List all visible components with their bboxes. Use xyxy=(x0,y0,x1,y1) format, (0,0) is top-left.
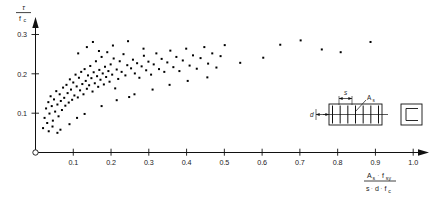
data-point xyxy=(143,55,145,57)
data-point xyxy=(134,72,136,74)
data-point xyxy=(98,69,100,71)
data-point xyxy=(101,105,103,107)
spacing-arrow-right xyxy=(348,97,352,100)
data-point xyxy=(90,77,92,79)
data-point xyxy=(79,89,81,91)
data-point xyxy=(76,117,78,119)
data-point xyxy=(93,71,95,73)
data-point xyxy=(145,69,147,71)
data-point xyxy=(53,98,55,100)
data-point xyxy=(116,69,118,71)
data-point xyxy=(44,117,46,119)
data-point xyxy=(189,65,191,67)
data-point xyxy=(340,51,342,53)
data-point xyxy=(169,84,171,86)
data-point xyxy=(86,88,88,90)
data-point xyxy=(143,48,145,50)
data-point xyxy=(84,68,86,70)
y-axis-label: τ f c xyxy=(16,4,31,23)
data-point xyxy=(220,55,222,57)
data-point xyxy=(102,72,104,74)
x-tick-label-4: 0.5 xyxy=(219,158,229,167)
data-point xyxy=(88,84,90,86)
data-point xyxy=(80,71,82,73)
data-point xyxy=(47,101,49,103)
x-axis-label-s: s xyxy=(366,185,370,192)
cross-section-stirrup xyxy=(406,109,418,121)
x-axis-label-dot-2: · xyxy=(381,185,383,191)
data-point xyxy=(133,93,135,95)
data-point xyxy=(182,59,184,61)
x-tick-label-9: 1.0 xyxy=(408,158,418,167)
x-axis-label-fsy-main: f xyxy=(382,172,384,179)
data-point xyxy=(54,111,56,113)
data-point xyxy=(42,127,44,129)
data-point xyxy=(128,96,130,98)
data-point xyxy=(104,66,106,68)
data-point xyxy=(106,51,108,53)
inset-beam-diagram: s A s d xyxy=(310,89,422,125)
data-point xyxy=(85,80,87,82)
x-axis-label-fsy-sub: sy xyxy=(386,175,392,181)
data-point xyxy=(150,74,152,76)
data-point xyxy=(87,74,89,76)
data-point xyxy=(69,78,71,80)
data-point xyxy=(121,71,123,73)
data-point xyxy=(110,63,112,65)
scatter-plot: 0.1 0.2 0.3 τ f c 0.10.20.30.40.50.60.70… xyxy=(0,0,443,200)
area-leader-line xyxy=(355,100,366,112)
data-point xyxy=(262,57,264,59)
data-point xyxy=(113,57,115,59)
data-point xyxy=(109,81,111,83)
data-point xyxy=(239,62,241,64)
depth-arrow-left xyxy=(316,113,320,116)
data-point xyxy=(105,76,107,78)
data-point xyxy=(81,83,83,85)
data-point xyxy=(127,40,129,42)
data-point xyxy=(178,70,180,72)
data-point xyxy=(96,75,98,77)
figure-root: 0.1 0.2 0.3 τ f c 0.10.20.30.40.50.60.70… xyxy=(0,0,443,200)
depth-arrow-right xyxy=(325,113,329,116)
data-point xyxy=(211,52,213,54)
data-point xyxy=(175,56,177,58)
data-point xyxy=(111,74,113,76)
data-point xyxy=(68,123,70,125)
data-point xyxy=(77,52,79,54)
data-point xyxy=(64,105,66,107)
y-tick-label-1: 0.2 xyxy=(17,70,27,79)
spacing-arrow-left xyxy=(339,97,343,100)
y-tick-label-0: 0.1 xyxy=(17,109,27,118)
data-point xyxy=(370,41,372,43)
data-point xyxy=(132,59,134,61)
depth-label: d xyxy=(310,111,314,118)
x-tick-label-6: 0.7 xyxy=(295,158,305,167)
data-point xyxy=(89,65,91,67)
data-point xyxy=(207,63,209,65)
x-tick-label-0: 0.1 xyxy=(68,158,78,167)
x-axis-label-fc-sub: c xyxy=(388,188,391,194)
x-tick-label-2: 0.3 xyxy=(144,158,154,167)
x-axis-label-d: d xyxy=(375,185,379,192)
data-point xyxy=(124,74,126,76)
data-point xyxy=(59,129,61,131)
data-point xyxy=(48,113,50,115)
data-point xyxy=(70,89,72,91)
data-point xyxy=(163,71,165,73)
data-point xyxy=(56,104,58,106)
scatter-points-group xyxy=(42,39,371,133)
data-point xyxy=(72,81,74,83)
data-point xyxy=(99,79,101,81)
data-point xyxy=(77,96,79,98)
data-point xyxy=(107,70,109,72)
data-point xyxy=(136,62,138,64)
data-point xyxy=(60,100,62,102)
origin-marker xyxy=(33,150,38,155)
x-axis-arrowhead xyxy=(418,149,429,155)
x-axis-label-numerator-dot: · xyxy=(378,172,380,178)
data-point xyxy=(101,56,103,58)
data-point xyxy=(224,44,226,46)
data-point xyxy=(45,107,47,109)
data-point xyxy=(62,87,64,89)
x-axis-label: A s · f sy s · d · f c xyxy=(364,172,396,194)
